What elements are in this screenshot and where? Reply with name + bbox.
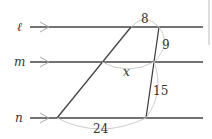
label-line-l: ℓ	[17, 20, 22, 34]
parallel-lines-diagram: ℓ m n 8 9 x 15 24	[0, 0, 212, 139]
label-line-n: n	[15, 111, 23, 125]
label-bottom: 24	[93, 122, 109, 136]
label-middle: x	[123, 65, 130, 79]
label-lower-right: 15	[153, 84, 168, 98]
label-top: 8	[141, 12, 149, 26]
label-line-m: m	[14, 55, 25, 69]
left-transversal	[57, 27, 131, 118]
label-upper-right: 9	[162, 38, 170, 52]
